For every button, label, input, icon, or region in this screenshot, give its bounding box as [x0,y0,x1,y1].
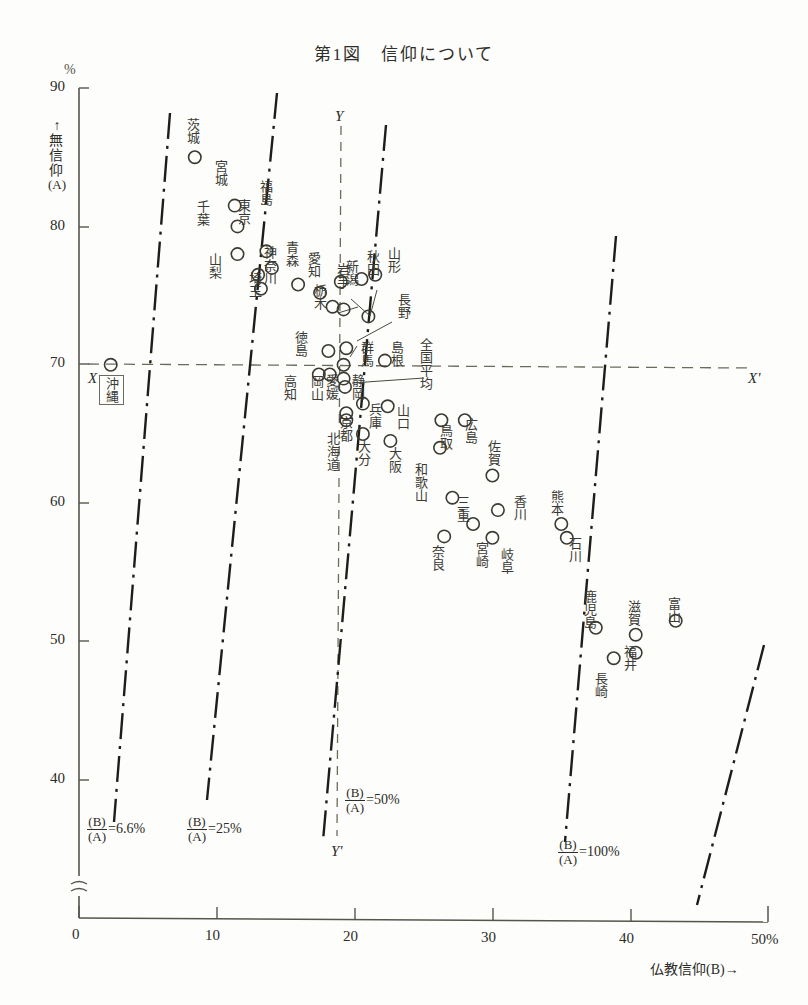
prefecture-label: 和歌山 [414,463,427,502]
axis-break-lower [71,889,87,892]
prefecture-label: 栃木 [313,284,326,310]
ratio-label-100: (B) (A) =100% [558,838,620,866]
ratio-line-6-6 [114,113,170,822]
prefecture-label: 千葉 [196,200,209,226]
prefecture-label: 佐賀 [487,440,500,466]
axis-lines [71,88,768,922]
ratio-numerator: (B) [87,815,106,830]
leader-akita [351,299,370,316]
data-point-marker [608,652,620,664]
ratio-fraction: (B) (A) [87,815,107,843]
y-axis-title-paren: (A) [47,178,67,192]
prefecture-label: 鹿児島 [583,590,596,629]
data-point-marker [322,345,334,357]
data-point-marker [340,342,352,354]
prefecture-label: 大分 [357,440,370,466]
chart-root: 第1図 信仰について [0,0,808,1005]
prefecture-label: 静岡 [351,374,364,400]
ratio-denominator: (A) [187,830,207,844]
prefecture-label: 福井 [623,645,636,671]
prefecture-label: 石川 [568,537,581,563]
ratio-label-25: (B) (A) =25% [187,815,242,843]
prefecture-label: 福島 [259,180,272,206]
ratio-value: =100% [579,844,620,860]
data-point-marker [555,518,567,530]
prefecture-label: 岐阜 [500,548,513,574]
ratio-lines [114,93,764,905]
prefecture-label: 兵庫 [368,403,381,429]
prefecture-label: 全国平均 [419,338,432,390]
prefecture-label: 京都 [339,416,352,442]
prefecture-label: 宮崎 [475,542,488,568]
prefecture-label: 徳島 [294,331,307,357]
y-tick-label-40: 40 [50,770,65,787]
x-tick-label-30: 30 [481,929,496,946]
prefecture-label: 岡山 [310,375,323,401]
y-tick-label-80: 80 [50,217,65,234]
okinawa-box-label: 沖縄 [99,375,124,405]
prefecture-label: 山口 [396,404,409,430]
leader-nagano [357,322,392,341]
x-axis-line [79,918,768,922]
x-tick-label-10: 10 [205,927,220,944]
reference-label-X: X [88,370,97,387]
prefecture-label: 富山 [667,597,680,623]
x-tick-label-40: 40 [619,930,634,947]
data-point-marker [337,303,349,315]
reference-label-X2: X' [748,370,760,387]
prefecture-label: 大阪 [388,447,401,473]
y-axis-title-text: 無信仰 [47,133,62,178]
prefecture-label: 滋賀 [627,600,640,626]
data-point-marker [486,469,498,481]
data-point-marker [630,629,642,641]
prefecture-label: 三重 [456,496,469,522]
data-point-marker [382,400,394,412]
ratio-value: =50% [366,792,400,808]
y-axis-title: ↑ 無信仰 (A) [47,118,67,192]
data-point-marker [384,435,396,447]
y-tick-label-50: 50 [50,631,65,648]
prefecture-label: 秋田 [366,250,379,276]
data-point-marker [438,530,450,542]
prefecture-label: 青森 [285,241,298,267]
axis-break-upper [71,882,87,885]
x-tick-label-20: 20 [343,928,358,945]
ratio-value: =6.6% [108,821,145,837]
prefecture-label: 島根 [390,341,403,367]
prefecture-label: 奈良 [431,545,444,571]
prefecture-label: 長野 [397,293,410,319]
data-point-marker [189,151,201,163]
prefecture-label: 高知 [283,375,296,401]
ratio-numerator: (B) [345,786,364,801]
ratio-line-50 [323,125,386,841]
prefecture-label: 山形 [387,247,400,273]
ratio-numerator: (B) [558,838,577,853]
prefecture-label: 熊本 [550,490,563,516]
prefecture-label: 香川 [513,495,526,521]
ratio-denominator: (A) [345,801,365,815]
prefecture-label: 愛知 [307,252,320,278]
y-tick-label-70: 70 [50,354,65,371]
ratio-line-extra [697,645,764,905]
prefecture-label: 神奈川 [263,246,276,285]
prefecture-label: 長崎 [594,672,607,698]
prefecture-label: 北海道 [326,432,339,471]
data-point-marker [231,248,243,260]
ratio-label-6-6: (B) (A) =6.6% [87,815,145,843]
data-point-marker [337,359,349,371]
scatter-plot-canvas [0,0,808,1005]
ratio-denominator: (A) [558,853,578,867]
x-tick-label-50: 50% [751,931,779,948]
x-axis-title: 仏教信仰(B)→ [650,958,739,978]
ratio-denominator: (A) [87,830,107,844]
prefecture-label: 新潟 [345,260,358,286]
x-tick-label-0: 0 [72,926,80,943]
ratio-value: =25% [208,821,242,837]
ratio-fraction: (B) (A) [187,815,207,843]
reference-label-Y2: Y' [331,843,343,860]
prefecture-label: 鳥取 [439,424,452,450]
ratio-label-50: (B) (A) =50% [345,786,400,814]
reference-label-Y: Y [335,108,343,125]
y-tick-label-60: 60 [50,493,65,510]
leader-iwate-brace [338,307,358,313]
